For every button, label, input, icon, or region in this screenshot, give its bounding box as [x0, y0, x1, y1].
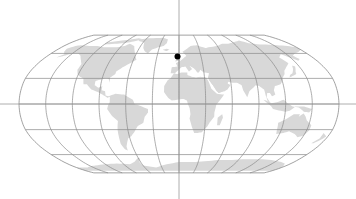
world-map-canvas: [0, 0, 356, 199]
landmass-antarctica: [76, 158, 285, 171]
landmass-indonesia: [263, 100, 312, 113]
landmass-australia: [276, 113, 311, 137]
landmass-north-america: [57, 44, 137, 98]
landmass-japan: [290, 66, 297, 78]
landmass-greenland: [139, 38, 168, 54]
landmass-new-zealand: [311, 133, 326, 143]
landmass-iceland: [163, 49, 170, 51]
landmass-south-america: [107, 94, 148, 151]
world-map: [0, 0, 356, 199]
location-marker-dot[interactable]: [175, 54, 181, 60]
landmass-madagascar: [217, 114, 223, 125]
